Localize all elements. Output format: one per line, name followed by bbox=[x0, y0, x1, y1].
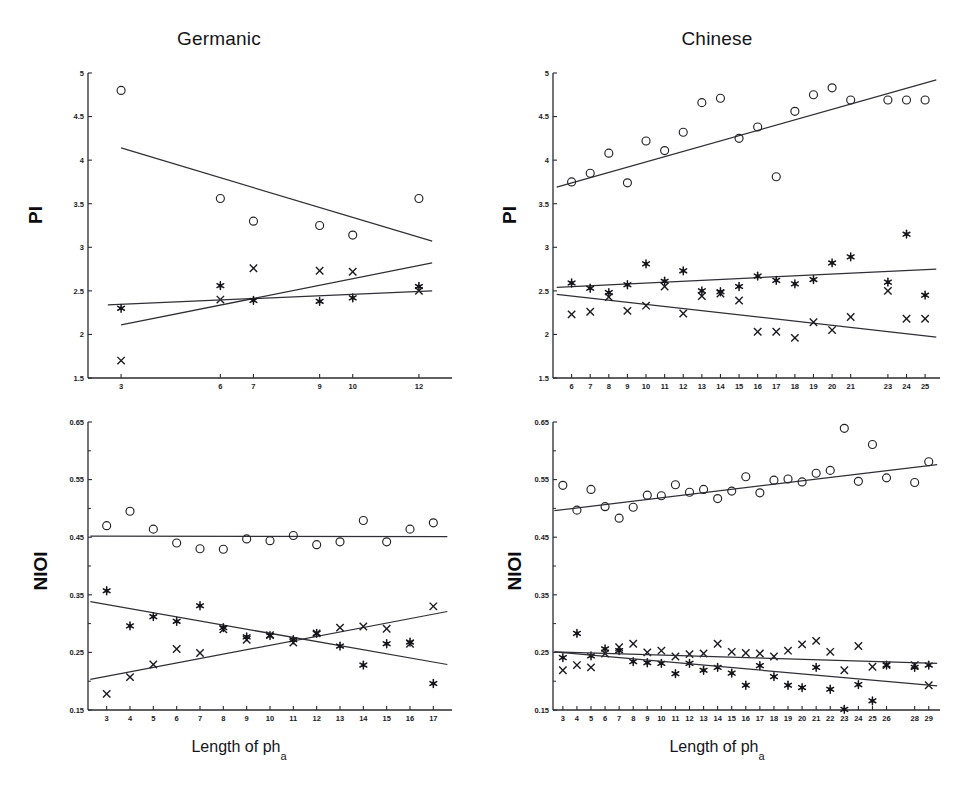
svg-text:20: 20 bbox=[798, 714, 806, 723]
x-axis-label-chinese: Length of pha bbox=[478, 738, 956, 758]
panel-title-chinese: Chinese bbox=[478, 28, 956, 50]
svg-text:0.35: 0.35 bbox=[534, 591, 549, 600]
y-axis-label-nioi-chinese: NIOI bbox=[504, 516, 526, 626]
svg-text:4: 4 bbox=[575, 714, 580, 723]
svg-text:2: 2 bbox=[80, 330, 84, 339]
svg-text:24: 24 bbox=[902, 382, 911, 391]
plot-area-chinese-pi: 1.522.533.544.55678910111213141516171819… bbox=[478, 28, 956, 400]
svg-text:25: 25 bbox=[921, 382, 929, 391]
panel-chinese-pi: Chinese PI 1.522.533.544.556789101112131… bbox=[478, 28, 956, 400]
svg-text:14: 14 bbox=[359, 714, 368, 723]
x-axis-label-subscript: a bbox=[280, 750, 286, 762]
svg-text:0.45: 0.45 bbox=[69, 533, 84, 542]
svg-text:7: 7 bbox=[251, 382, 255, 391]
svg-text:3.5: 3.5 bbox=[74, 200, 84, 209]
svg-text:9: 9 bbox=[318, 382, 322, 391]
svg-text:3: 3 bbox=[545, 243, 549, 252]
svg-text:0.65: 0.65 bbox=[69, 418, 84, 427]
plot-area-germanic-nioi: 0.150.250.350.450.550.653456789101112131… bbox=[0, 400, 478, 730]
svg-text:16: 16 bbox=[406, 714, 414, 723]
svg-text:20: 20 bbox=[828, 382, 836, 391]
svg-text:12: 12 bbox=[415, 382, 423, 391]
svg-text:13: 13 bbox=[698, 382, 706, 391]
svg-text:10: 10 bbox=[642, 382, 650, 391]
svg-text:17: 17 bbox=[756, 714, 764, 723]
svg-text:19: 19 bbox=[809, 382, 817, 391]
x-axis-label-germanic: Length of pha bbox=[0, 738, 478, 758]
svg-text:23: 23 bbox=[840, 714, 848, 723]
svg-text:0.25: 0.25 bbox=[69, 648, 84, 657]
svg-text:17: 17 bbox=[772, 382, 780, 391]
svg-text:9: 9 bbox=[645, 714, 649, 723]
svg-text:3: 3 bbox=[105, 714, 109, 723]
svg-text:16: 16 bbox=[742, 714, 750, 723]
svg-text:2.5: 2.5 bbox=[539, 287, 549, 296]
svg-text:18: 18 bbox=[770, 714, 778, 723]
svg-text:3: 3 bbox=[119, 382, 123, 391]
svg-text:10: 10 bbox=[657, 714, 665, 723]
svg-text:4: 4 bbox=[128, 714, 133, 723]
svg-text:0.45: 0.45 bbox=[534, 533, 549, 542]
svg-text:7: 7 bbox=[617, 714, 621, 723]
svg-text:5: 5 bbox=[80, 69, 84, 78]
svg-text:0.15: 0.15 bbox=[534, 706, 549, 715]
svg-text:15: 15 bbox=[382, 714, 390, 723]
panel-germanic-nioi: NIOI 0.150.250.350.450.550.6534567891011… bbox=[0, 400, 478, 800]
svg-text:6: 6 bbox=[603, 714, 607, 723]
svg-text:2.5: 2.5 bbox=[74, 287, 84, 296]
svg-text:0.15: 0.15 bbox=[69, 706, 84, 715]
y-axis-label-pi-germanic: PI bbox=[25, 175, 47, 255]
svg-text:6: 6 bbox=[175, 714, 179, 723]
svg-text:26: 26 bbox=[882, 714, 890, 723]
svg-text:10: 10 bbox=[266, 714, 274, 723]
svg-text:11: 11 bbox=[661, 382, 669, 391]
svg-text:3: 3 bbox=[561, 714, 565, 723]
svg-text:14: 14 bbox=[716, 382, 725, 391]
svg-text:1.5: 1.5 bbox=[74, 374, 84, 383]
svg-text:4: 4 bbox=[545, 156, 550, 165]
x-axis-label-main: Length of ph bbox=[669, 738, 758, 755]
svg-text:16: 16 bbox=[753, 382, 761, 391]
svg-text:13: 13 bbox=[336, 714, 344, 723]
panel-chinese-nioi: NIOI 0.150.250.350.450.550.6534567891011… bbox=[478, 400, 956, 800]
svg-text:0.55: 0.55 bbox=[534, 475, 549, 484]
plot-area-germanic-pi: 1.522.533.544.5536791012 bbox=[0, 28, 478, 400]
x-axis-label-main: Length of ph bbox=[191, 738, 280, 755]
svg-text:11: 11 bbox=[289, 714, 297, 723]
svg-text:21: 21 bbox=[847, 382, 855, 391]
svg-text:1.5: 1.5 bbox=[539, 374, 549, 383]
svg-text:5: 5 bbox=[545, 69, 549, 78]
svg-text:15: 15 bbox=[735, 382, 743, 391]
svg-text:19: 19 bbox=[784, 714, 792, 723]
svg-text:5: 5 bbox=[589, 714, 593, 723]
svg-text:23: 23 bbox=[884, 382, 892, 391]
svg-text:4.5: 4.5 bbox=[539, 112, 549, 121]
svg-text:18: 18 bbox=[791, 382, 799, 391]
svg-text:8: 8 bbox=[221, 714, 225, 723]
svg-text:21: 21 bbox=[812, 714, 820, 723]
svg-text:2: 2 bbox=[545, 330, 549, 339]
svg-text:4.5: 4.5 bbox=[74, 112, 84, 121]
svg-text:8: 8 bbox=[631, 714, 635, 723]
y-axis-label-pi-chinese: PI bbox=[499, 175, 521, 255]
svg-text:4: 4 bbox=[80, 156, 85, 165]
plot-area-chinese-nioi: 0.150.250.350.450.550.653456789101112131… bbox=[478, 400, 956, 730]
svg-text:7: 7 bbox=[588, 382, 592, 391]
svg-text:29: 29 bbox=[925, 714, 933, 723]
y-axis-label-nioi-germanic: NIOI bbox=[30, 516, 52, 626]
svg-text:6: 6 bbox=[570, 382, 574, 391]
panel-germanic-pi: Germanic PI 1.522.533.544.5536791012 bbox=[0, 28, 478, 400]
svg-text:0.25: 0.25 bbox=[534, 648, 549, 657]
panel-title-germanic: Germanic bbox=[0, 28, 458, 50]
svg-text:6: 6 bbox=[218, 382, 222, 391]
x-axis-label-subscript: a bbox=[758, 750, 764, 762]
svg-text:10: 10 bbox=[349, 382, 357, 391]
svg-text:12: 12 bbox=[679, 382, 687, 391]
svg-text:9: 9 bbox=[625, 382, 629, 391]
svg-text:0.65: 0.65 bbox=[534, 418, 549, 427]
svg-text:17: 17 bbox=[429, 714, 437, 723]
svg-text:11: 11 bbox=[671, 714, 679, 723]
figure-root: Germanic PI 1.522.533.544.5536791012 Chi… bbox=[0, 0, 956, 800]
svg-text:9: 9 bbox=[245, 714, 249, 723]
svg-text:25: 25 bbox=[868, 714, 876, 723]
